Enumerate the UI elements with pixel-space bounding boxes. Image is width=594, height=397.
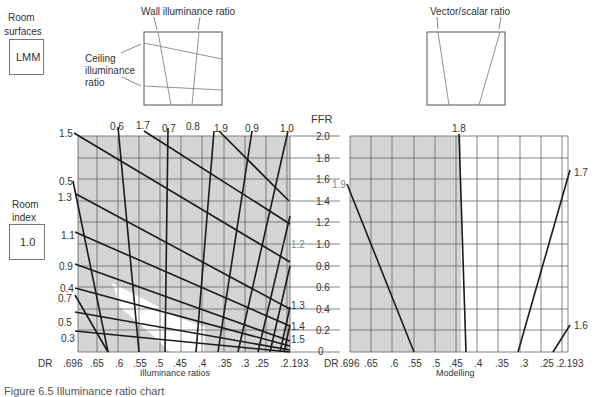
x-tick: .25 xyxy=(540,358,554,369)
room-surfaces-value: LMM xyxy=(16,52,40,63)
right-chart xyxy=(347,134,570,352)
x-tick: .65 xyxy=(90,358,104,369)
x-tick: .6 xyxy=(115,358,123,369)
dr-label-right: DR xyxy=(324,358,338,369)
x-tick: .3 xyxy=(241,358,249,369)
x-tick: .3 xyxy=(520,358,528,369)
x-tick: .25 xyxy=(255,358,269,369)
ffr-tick: 0.6 xyxy=(316,282,330,293)
ffr-tick: 1.0 xyxy=(316,239,330,250)
right-label: 1.2 xyxy=(291,239,305,250)
ffr-tick: 2.0 xyxy=(316,131,330,142)
inset-right-title: Vector/scalar ratio xyxy=(430,6,510,17)
ceiling-ratio-label: 1.7 xyxy=(136,120,150,131)
room-surfaces-label: Room xyxy=(8,12,35,23)
x-tick: .65 xyxy=(364,358,378,369)
ffr-tick: 0.2 xyxy=(316,325,330,336)
dr-label: DR xyxy=(38,358,52,369)
inset-right-diagram xyxy=(427,17,505,105)
left-label: 0.9 xyxy=(59,261,73,272)
modelling-curve-label: 1.6 xyxy=(574,320,588,331)
x-tick: .35 xyxy=(218,358,232,369)
room-surfaces-label-2: surfaces xyxy=(4,26,42,37)
wall-ratio-label: 1.0 xyxy=(280,123,294,134)
inset-left-diagram xyxy=(121,17,222,105)
ffr-tick: 1.4 xyxy=(316,196,330,207)
modelling-curve-label: 1.9 xyxy=(332,179,346,190)
room-surfaces-box: LMM xyxy=(9,39,44,75)
ffr-tick: 1.8 xyxy=(316,153,330,164)
room-index-box: 1.0 xyxy=(9,224,45,260)
ffr-tick: 0.8 xyxy=(316,261,330,272)
inset-left-side-label-1: Ceiling xyxy=(85,53,116,64)
x-tick: .4 xyxy=(474,358,482,369)
ffr-tick: 0 xyxy=(318,346,324,357)
x-tick: .35 xyxy=(495,358,509,369)
modelling-curve-label: 1.8 xyxy=(452,123,466,134)
wall-ratio-label: 0.6 xyxy=(110,121,124,132)
x-tick: .696 xyxy=(63,358,82,369)
wall-ratio-label: 0.8 xyxy=(186,121,200,132)
left-label: 0.5 xyxy=(58,317,72,328)
left-label: 1.3 xyxy=(58,192,72,203)
x-tick: .55 xyxy=(408,358,422,369)
inset-left-side-label-3: ratio xyxy=(85,77,104,88)
ffr-axis-title: FFR xyxy=(311,114,332,125)
room-index-label-2: index xyxy=(12,212,36,223)
x-tick: .193 xyxy=(289,358,308,369)
modelling-curve-label: 1.7 xyxy=(574,167,588,178)
x-tick: .696 xyxy=(340,358,359,369)
right-label: 1.3 xyxy=(291,300,305,311)
room-index-label: Room xyxy=(12,199,39,210)
left-label: 0.5 xyxy=(59,176,73,187)
right-label: 1.5 xyxy=(291,334,305,345)
wall-ratio-label: 0.9 xyxy=(245,123,259,134)
left-label: 0.3 xyxy=(61,333,75,344)
x-tick: .193 xyxy=(564,358,583,369)
left-label: 1.5 xyxy=(59,128,73,139)
ffr-tick: 0.4 xyxy=(316,304,330,315)
left-label: 1.1 xyxy=(61,230,75,241)
wall-ratio-label: 0.7 xyxy=(162,123,176,134)
ffr-tick: 1.6 xyxy=(316,174,330,185)
figure-caption: Figure 6.5 Illuminance ratio chart xyxy=(4,386,164,397)
x-tick: .2 xyxy=(280,358,288,369)
right-label: 1.4 xyxy=(291,321,305,332)
left-chart-xlabel: Illuminance ratios xyxy=(140,368,210,379)
ffr-tick: 1.2 xyxy=(316,217,330,228)
left-label: 0.7 xyxy=(58,293,72,304)
x-tick: .6 xyxy=(390,358,398,369)
right-chart-xlabel: Modelling xyxy=(436,368,475,379)
room-index-value: 1.0 xyxy=(20,237,35,248)
inset-left-title: Wall illuminance ratio xyxy=(141,6,235,17)
inset-left-side-label-2: illuminance xyxy=(85,65,135,76)
ceiling-ratio-label: 1.9 xyxy=(214,123,228,134)
